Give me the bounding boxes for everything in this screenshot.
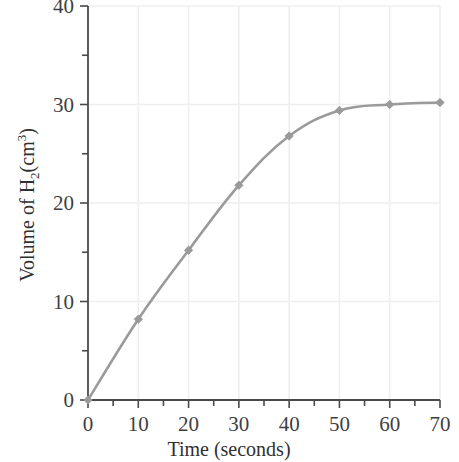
x-tick-label: 60 — [379, 412, 400, 436]
x-tick-label: 40 — [279, 412, 300, 436]
x-tick-label: 0 — [83, 412, 94, 436]
line-chart-svg: 010203040010203040506070 Time (seconds) … — [0, 0, 459, 462]
y-tick-label: 10 — [53, 290, 74, 314]
y-tick-label: 40 — [53, 0, 74, 18]
x-axis-title: Time (seconds) — [167, 438, 290, 461]
y-axis-title-mid: (cm — [16, 141, 39, 173]
chart-container: 010203040010203040506070 Time (seconds) … — [0, 0, 459, 462]
x-tick-label: 10 — [128, 412, 149, 436]
y-axis-title-lead: Volume of H — [16, 179, 38, 282]
y-tick-label: 20 — [53, 191, 74, 215]
y-axis-title-tail: ) — [16, 128, 39, 135]
x-tick-label: 70 — [430, 412, 451, 436]
y-tick-label: 30 — [53, 93, 74, 117]
y-axis-title-group: Volume of H2(cm3) — [14, 128, 42, 282]
y-tick-label: 0 — [64, 388, 75, 412]
y-axis-title: Volume of H2(cm3) — [14, 128, 42, 282]
x-tick-label: 30 — [228, 412, 249, 436]
x-tick-label: 20 — [178, 412, 199, 436]
x-tick-label: 50 — [329, 412, 350, 436]
